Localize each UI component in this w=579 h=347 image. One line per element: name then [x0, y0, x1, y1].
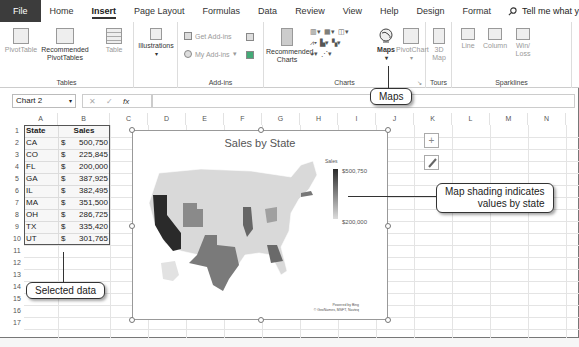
- row-header-4[interactable]: 4: [10, 161, 24, 173]
- table-button[interactable]: Table: [100, 28, 128, 54]
- resize-handle-bm[interactable]: [258, 317, 264, 323]
- cell-sales[interactable]: 500,750: [68, 137, 108, 149]
- recommended-pivottables-button[interactable]: Recommended PivotTables: [38, 28, 92, 62]
- tab-help[interactable]: Help: [371, 0, 408, 22]
- resize-handle-tm[interactable]: [258, 127, 264, 133]
- cell-sales[interactable]: 335,420: [68, 221, 108, 233]
- column-header-N[interactable]: N: [528, 113, 566, 125]
- row-header-1[interactable]: 1: [10, 125, 24, 137]
- addin-icon[interactable]: [246, 33, 254, 41]
- column-header-D[interactable]: D: [148, 113, 186, 125]
- sparkline-line-button[interactable]: Line: [458, 28, 478, 50]
- waterfall-chart-icon[interactable]: ◫▾: [338, 28, 349, 36]
- row-header-15[interactable]: 15: [10, 293, 24, 305]
- addin-icon-2[interactable]: [246, 51, 254, 59]
- column-header-A[interactable]: A: [24, 113, 58, 125]
- column-header-M[interactable]: M: [490, 113, 528, 125]
- row-header-14[interactable]: 14: [10, 281, 24, 293]
- resize-handle-mr[interactable]: [385, 223, 391, 229]
- row-header-11[interactable]: 11: [10, 245, 24, 257]
- column-chart-icon[interactable]: ▥▾: [310, 28, 321, 36]
- row-header-13[interactable]: 13: [10, 269, 24, 281]
- column-header-H[interactable]: H: [300, 113, 338, 125]
- recommended-charts-button[interactable]: Recommended Charts: [266, 28, 308, 64]
- cell-sales[interactable]: 301,765: [68, 233, 108, 245]
- column-header-E[interactable]: E: [186, 113, 224, 125]
- pivottable-button[interactable]: PivotTable: [4, 28, 38, 54]
- resize-handle-br[interactable]: [385, 317, 391, 323]
- header-cell-sales[interactable]: Sales: [58, 125, 110, 137]
- hierarchy-chart-icon[interactable]: ▦▾: [324, 28, 335, 36]
- row-header-2[interactable]: 2: [10, 137, 24, 149]
- row-header-8[interactable]: 8: [10, 209, 24, 221]
- map-chart[interactable]: Sales by State Sales $500,750 $200,000: [132, 130, 388, 320]
- dialog-launcher-icon[interactable]: ↘: [417, 79, 422, 86]
- statistic-chart-icon[interactable]: ▙▾: [320, 39, 329, 47]
- cell-state[interactable]: FL: [26, 161, 58, 173]
- tab-design[interactable]: Design: [408, 0, 454, 22]
- header-cell-state[interactable]: State: [26, 125, 58, 137]
- cell-state[interactable]: IL: [26, 185, 58, 197]
- insert-function-icon[interactable]: fx: [123, 97, 129, 106]
- cell-sales[interactable]: 387,925: [68, 173, 108, 185]
- my-addins-button[interactable]: My Add-ins ▾: [184, 50, 237, 58]
- enter-icon[interactable]: ✓: [106, 97, 113, 106]
- cell-state[interactable]: TX: [26, 221, 58, 233]
- cell-sales[interactable]: 382,495: [68, 185, 108, 197]
- cell-sales[interactable]: 351,500: [68, 197, 108, 209]
- cell-state[interactable]: OH: [26, 209, 58, 221]
- tab-page-layout[interactable]: Page Layout: [125, 0, 194, 22]
- column-header-J[interactable]: J: [376, 113, 414, 125]
- sparkline-winloss-button[interactable]: Win/ Loss: [512, 28, 534, 58]
- tab-formulas[interactable]: Formulas: [194, 0, 250, 22]
- chevron-down-icon[interactable]: ▾: [69, 95, 72, 107]
- column-header-C[interactable]: C: [110, 113, 148, 125]
- cancel-icon[interactable]: ✕: [89, 97, 96, 106]
- row-header-16[interactable]: 16: [10, 305, 24, 317]
- sparkline-column-button[interactable]: Column: [480, 28, 510, 50]
- row-header-7[interactable]: 7: [10, 197, 24, 209]
- column-header-L[interactable]: L: [452, 113, 490, 125]
- pivotchart-button[interactable]: PivotChart ▾: [396, 28, 426, 62]
- scatter-chart-icon[interactable]: ⋰▾: [321, 50, 332, 58]
- line-chart-icon[interactable]: ⩘▾: [310, 39, 317, 47]
- column-header-B[interactable]: B: [58, 113, 110, 125]
- cell-state[interactable]: MA: [26, 197, 58, 209]
- combo-chart-icon[interactable]: ▚▾: [332, 39, 341, 47]
- pie-chart-icon[interactable]: ◕▾: [310, 50, 318, 58]
- resize-handle-tr[interactable]: [385, 127, 391, 133]
- cell-sales[interactable]: 225,845: [68, 149, 108, 161]
- tab-format[interactable]: Format: [454, 0, 501, 22]
- chart-elements-button[interactable]: +: [424, 133, 439, 148]
- tab-insert[interactable]: Insert: [83, 0, 126, 22]
- column-header-F[interactable]: F: [224, 113, 262, 125]
- row-header-6[interactable]: 6: [10, 185, 24, 197]
- us-map[interactable]: [141, 155, 326, 305]
- cell-sales[interactable]: 286,725: [68, 209, 108, 221]
- tab-file[interactable]: File: [0, 0, 41, 22]
- tab-home[interactable]: Home: [41, 0, 83, 22]
- chart-title[interactable]: Sales by State: [133, 137, 387, 149]
- row-header-17[interactable]: 17: [10, 317, 24, 329]
- tab-view[interactable]: View: [334, 0, 371, 22]
- column-header-I[interactable]: I: [338, 113, 376, 125]
- row-header-3[interactable]: 3: [10, 149, 24, 161]
- tell-me-box[interactable]: Tell me what you want to do: [500, 6, 579, 16]
- tab-data[interactable]: Data: [249, 0, 286, 22]
- column-header-K[interactable]: K: [414, 113, 452, 125]
- row-header-12[interactable]: 12: [10, 257, 24, 269]
- resize-handle-bl[interactable]: [129, 317, 135, 323]
- cell-sales[interactable]: 200,000: [68, 161, 108, 173]
- 3d-map-button[interactable]: 3D Map: [428, 28, 450, 62]
- illustrations-button[interactable]: Illustrations ▾: [136, 28, 176, 58]
- resize-handle-ml[interactable]: [129, 223, 135, 229]
- tab-review[interactable]: Review: [286, 0, 334, 22]
- cell-state[interactable]: CA: [26, 137, 58, 149]
- cell-state[interactable]: UT: [26, 233, 58, 245]
- cell-state[interactable]: GA: [26, 173, 58, 185]
- chart-styles-button[interactable]: [424, 155, 439, 170]
- name-box[interactable]: Chart 2 ▾: [12, 94, 76, 108]
- cell-state[interactable]: CO: [26, 149, 58, 161]
- column-header-G[interactable]: G: [262, 113, 300, 125]
- row-header-10[interactable]: 10: [10, 233, 24, 245]
